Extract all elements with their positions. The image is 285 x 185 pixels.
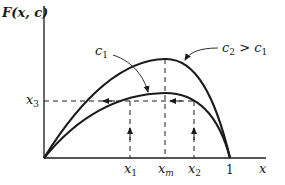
y-axis-label: F(x, c) (1, 5, 48, 20)
y-tick-x3: x3 (26, 92, 39, 109)
x-tick-x1: x1 (124, 161, 137, 178)
curve-c1 (44, 93, 230, 158)
curve-c1-label: c1 (95, 43, 108, 60)
x-tick-one: 1 (226, 163, 234, 177)
diagram-canvas: F(x, c) x c1 c2 > c1 x3 x1 xm x2 1 (0, 0, 285, 185)
curve-c2 (44, 59, 230, 158)
curve-c2-label: c2 > c1 (222, 40, 267, 57)
x-axis-label: x (259, 161, 267, 176)
c2-pointer-arrow-icon (185, 48, 218, 60)
x-tick-xm: xm (158, 161, 174, 178)
x-tick-x2: x2 (188, 161, 201, 178)
